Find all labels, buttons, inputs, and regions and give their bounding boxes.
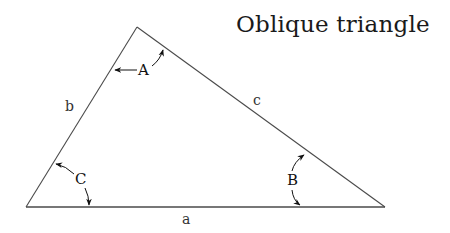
side-c-label: c [253, 93, 261, 107]
angle-a-label: A [138, 63, 149, 78]
angle-b-label: B [287, 173, 298, 188]
side-a-label: a [182, 212, 190, 226]
diagram-title: Oblique triangle [236, 11, 430, 37]
angle-c-label: C [75, 172, 86, 187]
side-c-line [137, 27, 385, 207]
side-b-label: b [65, 99, 74, 113]
oblique-triangle-diagram: Oblique triangle b c a A B C [0, 0, 450, 233]
